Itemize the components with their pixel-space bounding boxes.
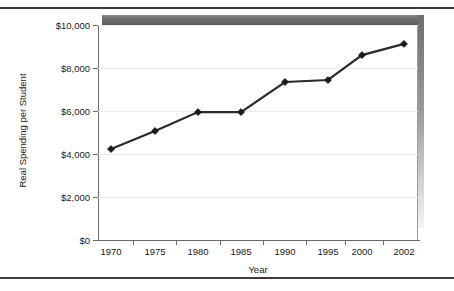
- chart-figure: $10,000 $8,000 $6,000 $4,000 $2,000 $0 1…: [0, 0, 454, 291]
- data-point-marker: [195, 109, 202, 116]
- x-axis-title: Year: [98, 264, 418, 275]
- y-axis-title: Real Spending per Student: [17, 41, 28, 221]
- series-markers: [108, 41, 408, 153]
- data-point-marker: [108, 146, 115, 153]
- data-point-marker: [401, 41, 408, 48]
- data-point-marker: [152, 128, 159, 135]
- data-series-layer: [0, 0, 454, 291]
